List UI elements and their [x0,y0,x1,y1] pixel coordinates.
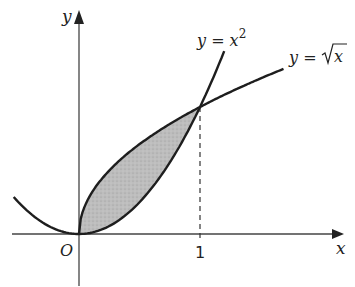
origin-label: O [60,241,73,260]
y-axis-label: y [61,6,72,26]
y-axis-arrow-icon [74,10,84,24]
sqrt-radicand: x [334,47,343,66]
shaded-region [79,107,200,234]
parabola-label: y = x2 [196,27,246,50]
x-tick-label-1: 1 [195,243,205,262]
x-axis-label: x [336,238,346,258]
diagram-canvas: y x O 1 y = x2 y = x [0,0,355,287]
exponent: 2 [239,27,247,41]
sqrt-label: y = [288,48,317,67]
